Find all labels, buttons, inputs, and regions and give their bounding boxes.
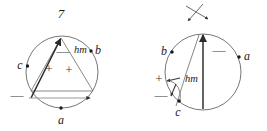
right-diagram-group: b a c hm — + —	[154, 4, 251, 119]
left-diagram-group: 7 c b a hm — + + —	[10, 6, 102, 127]
left-sign-minus-bottom: —	[10, 87, 25, 102]
left-point-c-dot	[26, 64, 29, 67]
left-hm-label: hm	[74, 44, 87, 55]
left-top-number-label: 7	[58, 6, 65, 21]
right-point-a-dot	[237, 55, 240, 58]
x-crossing-arrows-icon	[186, 4, 208, 21]
left-point-label-b: b	[95, 43, 101, 57]
right-sign-plus-left: +	[155, 71, 162, 86]
left-sign-plus-left: +	[45, 61, 52, 76]
right-point-label-b: b	[161, 44, 167, 58]
right-arrow-left	[167, 78, 180, 81]
left-point-label-a: a	[58, 113, 64, 127]
right-point-b-dot	[170, 50, 173, 53]
right-sign-minus-upper: —	[212, 42, 227, 57]
left-sign-plus-right: +	[65, 62, 72, 77]
right-point-label-a: a	[244, 49, 250, 63]
right-point-c-dot	[177, 99, 180, 102]
right-arrow-down	[171, 84, 176, 96]
right-sign-minus-lower: —	[154, 87, 169, 102]
left-point-a-dot	[59, 106, 62, 109]
left-sign-minus-near-hm: —	[56, 43, 71, 58]
figure-canvas: 7 c b a hm — + + —	[0, 0, 267, 131]
right-long-chord	[176, 35, 199, 106]
right-point-label-c: c	[175, 105, 181, 119]
right-hm-label: hm	[185, 73, 198, 84]
left-point-label-c: c	[17, 58, 23, 72]
left-point-b-dot	[89, 49, 92, 52]
figure-root: 7 c b a hm — + + —	[0, 0, 267, 131]
